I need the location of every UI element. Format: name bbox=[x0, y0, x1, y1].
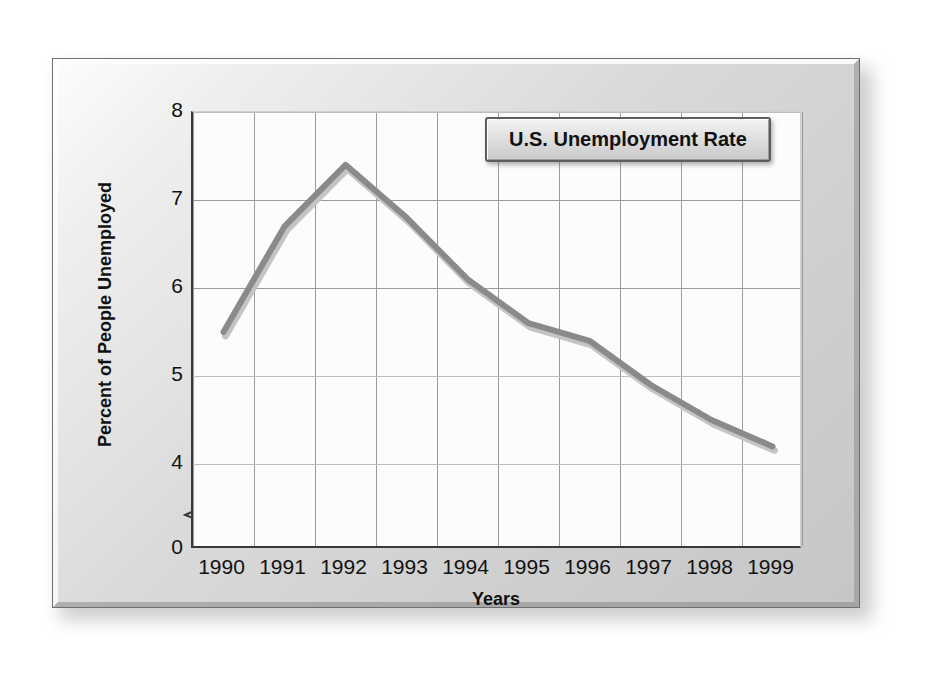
y-tick-8: 8 bbox=[171, 98, 183, 122]
x-tick-1999: 1999 bbox=[740, 555, 802, 579]
x-tick-1997: 1997 bbox=[618, 555, 680, 579]
x-tick-1991: 1991 bbox=[252, 555, 314, 579]
x-tick-1994: 1994 bbox=[435, 555, 497, 579]
x-axis-tick-labels: 1990199119921993199419951996199719981999 bbox=[191, 555, 801, 585]
legend-title-plate: U.S. Unemployment Rate bbox=[485, 117, 771, 162]
x-tick-1996: 1996 bbox=[557, 555, 619, 579]
y-axis-tick-labels: 8 7 6 5 4 0 bbox=[145, 111, 183, 611]
unemployment-rate-line bbox=[193, 112, 803, 549]
x-tick-1998: 1998 bbox=[679, 555, 741, 579]
legend-label: U.S. Unemployment Rate bbox=[509, 128, 747, 150]
x-tick-1992: 1992 bbox=[313, 555, 375, 579]
chart-panel: 8 7 6 5 4 0 U.S. U bbox=[52, 58, 860, 608]
y-tick-0: 0 bbox=[171, 535, 183, 559]
x-tick-1990: 1990 bbox=[191, 555, 253, 579]
x-tick-1995: 1995 bbox=[496, 555, 558, 579]
y-tick-6: 6 bbox=[171, 274, 183, 298]
plot-area bbox=[191, 111, 801, 548]
panel-corner-bevel-icon bbox=[59, 64, 85, 90]
x-axis-title: Years bbox=[191, 589, 801, 610]
x-tick-1993: 1993 bbox=[374, 555, 436, 579]
y-tick-4: 4 bbox=[171, 450, 183, 474]
y-tick-5: 5 bbox=[171, 362, 183, 386]
y-tick-7: 7 bbox=[171, 186, 183, 210]
y-axis-title: Percent of People Unemployed bbox=[95, 135, 116, 495]
